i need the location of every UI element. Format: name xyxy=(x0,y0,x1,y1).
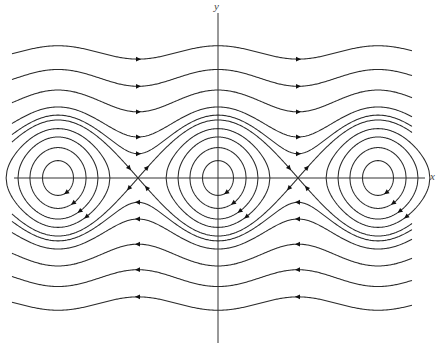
phase-portrait xyxy=(0,0,445,353)
arrow-icon xyxy=(295,267,300,272)
arrow-icon xyxy=(136,135,141,140)
arrow-icon xyxy=(135,242,140,247)
arrow-icon xyxy=(136,57,141,62)
arrow-icon xyxy=(135,294,140,299)
arrow-icon xyxy=(135,217,140,222)
arrow-icon xyxy=(296,135,301,140)
arrow-icon xyxy=(296,84,301,89)
x-axis-label: x xyxy=(430,170,435,182)
trajectory xyxy=(12,270,412,287)
arrow-icon xyxy=(136,109,141,114)
arrow-icon xyxy=(296,151,301,156)
arrow-icon xyxy=(296,57,301,62)
arrow-icon xyxy=(135,267,140,272)
y-axis-label: y xyxy=(214,0,219,12)
arrow-icon xyxy=(295,242,300,247)
arrow-icon xyxy=(295,217,300,222)
arrow-icon xyxy=(296,109,301,114)
trajectory xyxy=(12,46,412,59)
arrow-icon xyxy=(136,151,141,156)
arrow-icon xyxy=(136,84,141,89)
trajectory xyxy=(12,297,412,310)
trajectory xyxy=(12,69,412,86)
arrow-icon xyxy=(295,294,300,299)
arrow-icon xyxy=(135,200,140,205)
arrow-icon xyxy=(295,200,300,205)
